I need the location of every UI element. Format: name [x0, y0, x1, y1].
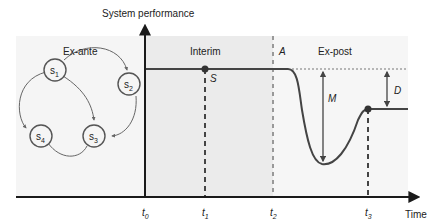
a-label: A [278, 46, 286, 57]
point-recovery [365, 106, 372, 113]
ex-ante-panel [16, 36, 145, 197]
tick-t1: t1 [202, 207, 209, 220]
tick-t0: t0 [142, 207, 149, 220]
y-axis-label: System performance [102, 8, 195, 19]
ex-post-label: Ex-post [318, 46, 352, 57]
interim-panel [145, 36, 273, 197]
interim-label: Interim [190, 46, 221, 57]
ex-post-panel [273, 36, 408, 197]
resilience-diagram: s1 s2 s3 s4 Ex-ante Interim Ex-post S A … [0, 0, 442, 224]
x-axis-label: Time [405, 209, 427, 220]
point-s [202, 66, 209, 73]
ex-ante-label: Ex-ante [63, 46, 98, 57]
tick-t3: t3 [365, 207, 372, 220]
m-label: M [328, 93, 337, 104]
tick-t2: t2 [270, 207, 277, 220]
s-label: S [210, 73, 217, 84]
d-label: D [394, 85, 401, 96]
